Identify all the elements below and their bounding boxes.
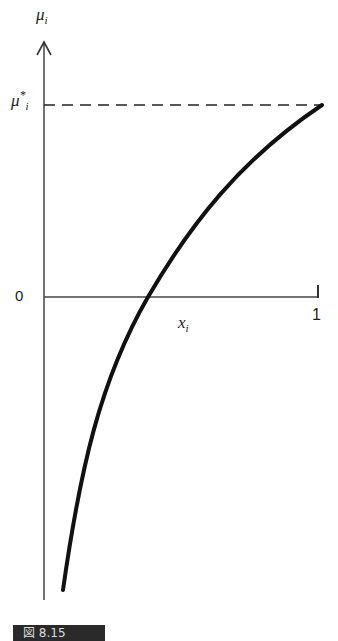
x-axis-label: xi — [178, 313, 189, 334]
y-axis-label: μi — [36, 5, 48, 26]
figure-caption-badge: 図 8.15 — [13, 625, 105, 641]
y-tick-zero: 0 — [15, 287, 23, 304]
mu-star-label: μ*i — [11, 88, 29, 112]
x-tick-one-label: 1 — [312, 306, 321, 324]
chemical-potential-curve — [63, 105, 322, 590]
